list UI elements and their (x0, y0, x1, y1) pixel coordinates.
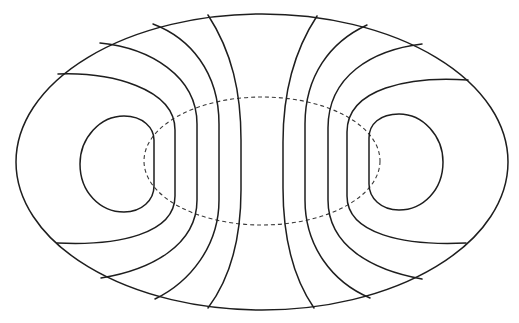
left-field-line-4 (208, 15, 241, 308)
inner-dashed-ellipse (144, 97, 380, 225)
right-field-line-4 (347, 79, 468, 243)
field-diagram-svg (0, 0, 519, 323)
diagram-canvas (0, 0, 519, 323)
outer-boundary-ellipse (16, 14, 508, 310)
right-field-line-3 (328, 44, 422, 279)
right-field-line-1 (283, 16, 317, 308)
left-field-line-3 (153, 24, 219, 299)
left-field-line-1 (57, 74, 175, 244)
left-closed-loop (80, 116, 154, 212)
